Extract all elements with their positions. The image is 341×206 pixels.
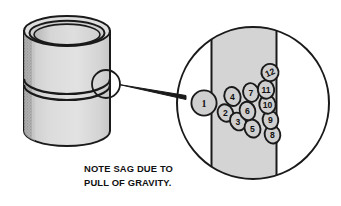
- caption-line-2: PULL OF GRAVITY.: [84, 177, 171, 188]
- welding-detail-figure: 1 2 3 4: [0, 0, 341, 206]
- weld-bead-8-number: 8: [270, 130, 275, 140]
- caption-line-1: NOTE SAG DUE TO: [84, 163, 173, 174]
- figure-canvas: 1 2 3 4: [0, 0, 341, 206]
- magnified-detail-view: 1 2 3 4: [177, 20, 329, 190]
- weld-bead-root: 1: [191, 90, 216, 115]
- weld-bead-11-number: 11: [261, 85, 270, 95]
- weld-bead-3-number: 3: [236, 117, 241, 127]
- pipe-bore: [34, 24, 100, 45]
- welded-pipe: [24, 16, 110, 146]
- weld-bead-9-number: 9: [268, 115, 273, 125]
- root-pass-number: 1: [202, 98, 207, 109]
- weld-bead-7-number: 7: [249, 88, 254, 98]
- weld-bead-5-number: 5: [250, 124, 255, 134]
- weld-bead-6-number: 6: [245, 106, 250, 116]
- pipe-body: [24, 31, 110, 146]
- weld-bead-2-number: 2: [223, 108, 228, 118]
- weld-bead-10-number: 10: [263, 100, 273, 110]
- weld-bead-4-number: 4: [230, 92, 235, 102]
- caption: NOTE SAG DUE TO PULL OF GRAVITY.: [84, 163, 173, 188]
- leader-line: [119, 85, 186, 100]
